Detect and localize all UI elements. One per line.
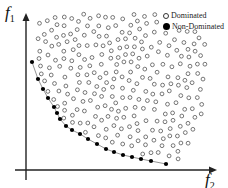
dominated-point [141,152,145,156]
dominated-point [86,24,90,28]
dominated-point [179,141,183,145]
dominated-point [62,49,66,53]
dominated-point [203,43,207,47]
non-dominated-point [41,87,45,91]
non-dominated-point [164,162,168,166]
dominated-point [176,76,180,80]
non-dominated-point [130,155,134,159]
dominated-point [176,134,180,138]
legend-label-dominated: Dominated [171,10,207,21]
dominated-point [141,76,145,80]
dominated-point [81,100,85,104]
dominated-point [154,100,158,104]
dominated-point [75,28,79,32]
non-dominated-point [139,157,143,161]
dominated-point [110,107,114,111]
dominated-point [133,105,137,109]
dominated-point [73,38,77,42]
dominated-point [70,59,74,63]
dominated-point [187,55,191,59]
dominated-point [108,41,112,45]
dominated-point [83,109,87,113]
x-axis-label: f2 [205,170,215,188]
dominated-point [57,89,61,93]
dominated-point [109,56,113,60]
dominated-point [62,34,66,38]
dominated-point [132,114,136,118]
non-dominated-point [86,137,90,141]
dominated-point [70,17,74,21]
dominated-point [58,64,62,68]
dominated-point [75,108,79,112]
dominated-point [153,108,157,112]
dominated-point [121,142,125,146]
dominated-point [116,38,120,42]
dominated-point [121,96,125,100]
dominated-point [161,62,165,66]
dominated-point [66,92,70,96]
dominated-point [152,30,156,34]
dominated-point [50,28,54,32]
dominated-point [115,63,119,67]
dominated-point [152,138,156,142]
non-dominated-point [58,117,62,121]
dominated-point [196,62,200,66]
dominated-point [103,104,107,108]
dominated-point [97,134,101,138]
dominated-point [78,66,82,70]
dominated-point [57,43,61,47]
dominated-point [183,107,187,111]
dominated-point [96,105,100,109]
dominated-point [155,119,159,123]
dominated-point [166,75,170,79]
dominated-point [157,50,161,54]
dominated-point [168,127,172,131]
dominated-point [167,154,171,158]
dominated-point [199,112,203,116]
dominated-point [49,73,53,77]
dominated-point [186,141,190,145]
legend-item-non-dominated: Non-Dominated [163,21,224,32]
dominated-point [176,149,180,153]
dominated-point [120,75,124,79]
dominated-point [37,57,41,61]
dominated-point [200,103,204,107]
dominated-point [183,131,187,135]
dominated-point [83,91,87,95]
dominated-point [143,15,147,19]
dominated-point [72,97,76,101]
dominated-point [62,24,66,28]
dominated-point [124,53,128,57]
dominated-point [131,88,135,92]
dominated-point [64,84,68,88]
dominated-point [163,120,167,124]
dominated-point [145,54,149,58]
dominated-point [118,46,122,50]
dominated-point [106,115,110,119]
dominated-point [124,106,128,110]
dominated-point [63,75,67,79]
dominated-point [43,79,47,83]
dominated-point [182,41,186,45]
dominated-point [136,19,140,23]
dominated-point [142,107,146,111]
dominated-point [195,96,199,100]
dominated-point [104,71,108,75]
dominated-point [77,20,81,24]
dominated-point [38,49,42,53]
dominated-point [89,99,93,103]
dominated-point [193,49,197,53]
dominated-point [120,30,124,34]
dominated-point [151,63,155,67]
dominated-point [178,124,182,128]
dominated-point [144,90,148,94]
dominated-point [158,41,162,45]
dominated-point [193,115,197,119]
dominated-point [55,35,59,39]
dominated-point [87,81,91,85]
dominated-point [97,35,101,39]
dominated-point [106,26,110,30]
dominated-point [190,107,194,111]
dominated-point [151,128,155,132]
dominated-point [180,114,184,118]
